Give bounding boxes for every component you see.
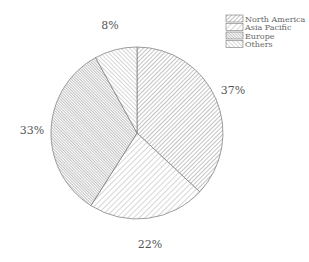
slice-label: 22%: [138, 238, 162, 251]
legend: North AmericaAsia PacificEuropeOthers: [226, 15, 306, 50]
slice-label: 37%: [221, 84, 245, 97]
legend-swatch: [226, 24, 243, 31]
legend-swatch: [226, 32, 243, 39]
legend-label: Others: [245, 40, 273, 49]
pie-slices: [51, 47, 223, 219]
slice-label: 8%: [101, 19, 118, 32]
pie-chart: 37%22%33%8% North AmericaAsia PacificEur…: [0, 0, 309, 262]
legend-swatch: [226, 41, 243, 48]
legend-swatch: [226, 15, 243, 22]
slice-label: 33%: [20, 124, 44, 137]
